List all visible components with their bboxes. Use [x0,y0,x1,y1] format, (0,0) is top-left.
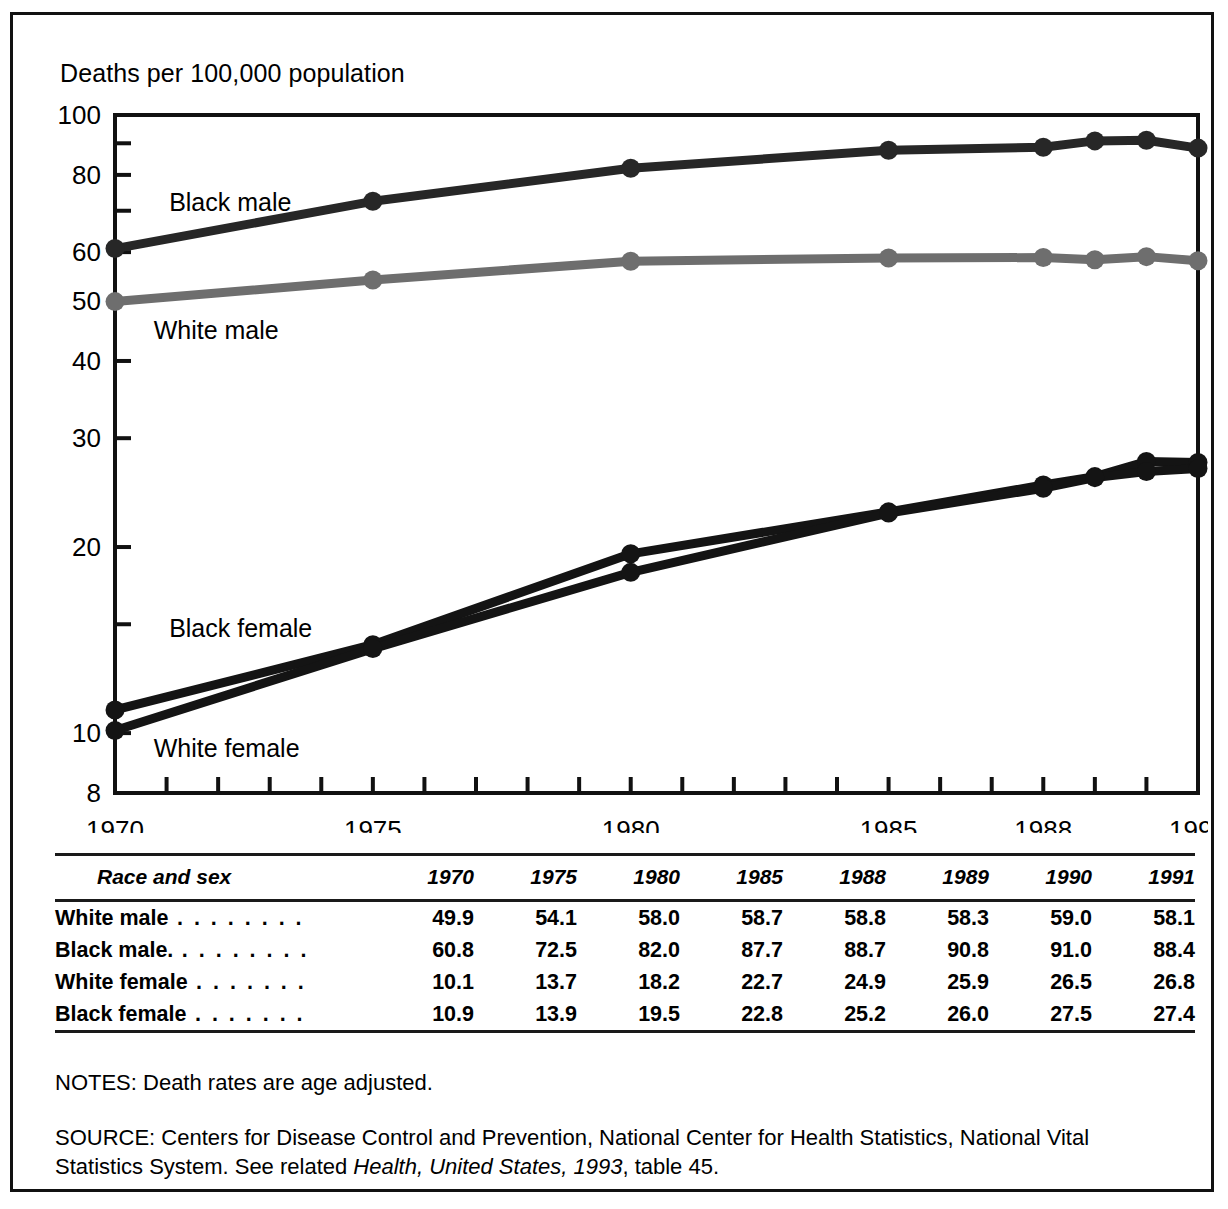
table-cell: 87.7 [680,934,783,966]
table-cell: 13.9 [474,998,577,1030]
table-cell: 18.2 [577,966,680,998]
table-header-1989: 1989 [886,856,989,899]
table-row-label: Black female . . . . . . . [55,998,371,1030]
data-point [1034,138,1053,157]
table-cell: 10.9 [371,998,474,1030]
series-label: White male [154,316,279,344]
series-label: Black female [169,614,312,642]
data-point [106,292,125,311]
data-table: Race and sex 1970 1975 1980 1985 1988 19… [55,856,1195,899]
y-tick-label: 100 [58,100,101,130]
y-tick-label: 40 [72,346,101,376]
data-point [106,239,125,258]
table-cell: 22.7 [680,966,783,998]
data-point [106,721,125,740]
data-point [879,504,898,523]
table-cell: 49.9 [371,902,474,934]
table-row-label: White male . . . . . . . . [55,902,371,934]
series-line [115,257,1198,302]
table-cell: 27.5 [989,998,1092,1030]
y-axis-ticks: 100806050403020108 [58,100,131,808]
y-tick-label: 30 [72,423,101,453]
figure-frame: Deaths per 100,000 population 1008060504… [10,12,1214,1192]
series-white-female: White female [106,459,1208,762]
table-cell: 58.1 [1092,902,1195,934]
table-header-1980: 1980 [577,856,680,899]
table-cell: 91.0 [989,934,1092,966]
table-row-label: White female . . . . . . . [55,966,371,998]
table-cell: 26.5 [989,966,1092,998]
source-suffix: , table 45. [622,1154,719,1179]
row-label-text: Black female [55,1002,186,1026]
table-header-race-and-sex: Race and sex [55,856,371,899]
y-tick-label: 8 [87,778,101,808]
series-label: White female [154,734,300,762]
data-point [1137,462,1156,481]
table-cell: 82.0 [577,934,680,966]
notes-text: NOTES: Death rates are age adjusted. [55,1070,433,1096]
table-cell: 72.5 [474,934,577,966]
row-label-dot-leader: . . . . . . . . [173,938,309,962]
table-cell: 58.3 [886,902,989,934]
table-header-row: Race and sex 1970 1975 1980 1985 1988 19… [55,856,1195,899]
table-cell: 60.8 [371,934,474,966]
row-label-dot-leader: . . . . . . . [188,970,307,994]
data-point [1034,479,1053,498]
data-point [621,563,640,582]
table-cell: 58.7 [680,902,783,934]
table-cell: 25.2 [783,998,886,1030]
table-header-1991: 1991 [1092,856,1195,899]
table-row-label: Black male. . . . . . . . . [55,934,371,966]
x-tick-label: 1991 [1169,815,1208,833]
series-black-male: Black male [106,131,1208,258]
data-point [879,249,898,268]
table-header-1990: 1990 [989,856,1092,899]
data-point [621,252,640,271]
table-cell: 26.8 [1092,966,1195,998]
chart-svg: 1008060504030201081970197519801985198819… [33,93,1208,833]
table-header-1970: 1970 [371,856,474,899]
y-tick-label: 10 [72,718,101,748]
table-cell: 24.9 [783,966,886,998]
x-axis-ticks: 197019751980198519881991 [86,777,1208,833]
table-cell: 22.8 [680,998,783,1030]
y-tick-label: 60 [72,237,101,267]
x-tick-label: 1985 [860,815,918,833]
data-point [1034,248,1053,267]
data-point [879,141,898,160]
table-cell: 58.8 [783,902,886,934]
data-point [1189,251,1208,270]
data-point [1137,131,1156,150]
data-table-body-wrap: White male . . . . . . . .49.954.158.058… [55,902,1195,1030]
table-header-1985: 1985 [680,856,783,899]
series-white-male: White male [106,247,1208,344]
source-citation-title: Health, United States, 1993 [353,1154,622,1179]
source-text: SOURCE: Centers for Disease Control and … [55,1123,1175,1181]
data-point [621,159,640,178]
table-cell: 19.5 [577,998,680,1030]
table-cell: 88.7 [783,934,886,966]
table-cell: 58.0 [577,902,680,934]
table-head: Race and sex 1970 1975 1980 1985 1988 19… [55,856,1195,899]
series-label: Black male [169,188,291,216]
table-cell: 25.9 [886,966,989,998]
x-tick-label: 1980 [602,815,660,833]
data-point [1085,468,1104,487]
data-point [621,544,640,563]
x-tick-label: 1970 [86,815,144,833]
table-row: White female . . . . . . .10.113.718.222… [55,966,1195,998]
x-tick-label: 1975 [344,815,402,833]
series-line [115,468,1198,730]
table-body: White male . . . . . . . .49.954.158.058… [55,902,1195,1030]
data-point [106,700,125,719]
data-table-block: Race and sex 1970 1975 1980 1985 1988 19… [55,853,1195,1033]
plot-area: 1008060504030201081970197519801985198819… [58,100,1208,833]
figure-page: Deaths per 100,000 population 1008060504… [0,0,1228,1209]
data-point [1137,247,1156,266]
table-cell: 59.0 [989,902,1092,934]
series-line [115,462,1198,710]
data-point [363,639,382,658]
table-header-1988: 1988 [783,856,886,899]
table-header-1975: 1975 [474,856,577,899]
y-axis-title: Deaths per 100,000 population [60,59,405,88]
